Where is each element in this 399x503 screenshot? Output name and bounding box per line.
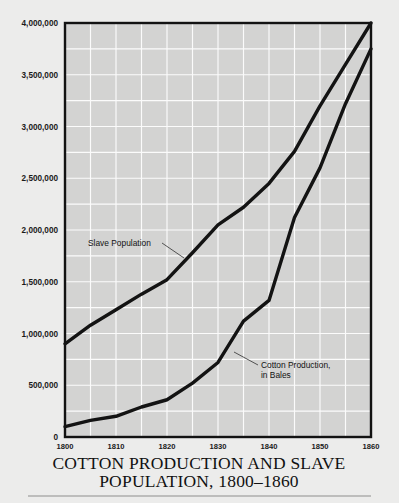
y-axis-tick-label: 4,000,000 <box>22 19 59 28</box>
cotton-slave-line-chart: 0500,0001,000,0001,500,0002,000,0002,500… <box>0 0 399 503</box>
x-axis-tick-label: 1800 <box>57 442 74 451</box>
x-axis-tick-label: 1820 <box>159 442 176 451</box>
x-axis-tick-label: 1840 <box>261 442 278 451</box>
y-axis-tick-label: 2,500,000 <box>22 174 59 183</box>
y-axis-tick-label: 1,500,000 <box>22 278 59 287</box>
chart-title-line-1: COTTON PRODUCTION AND SLAVE <box>52 453 345 473</box>
x-axis-tick-label: 1860 <box>363 442 380 451</box>
chart-title-line-2: POPULATION, 1800–1860 <box>99 471 299 491</box>
x-axis-tick-label: 1810 <box>108 442 125 451</box>
slave-population-annotation-label: Slave Population <box>88 238 151 248</box>
y-axis-tick-label: 3,500,000 <box>22 71 59 80</box>
cotton-production-annotation-label-line1: Cotton Production, <box>261 360 330 370</box>
y-axis-tick-label: 0 <box>53 433 58 442</box>
y-axis-tick-label: 500,000 <box>28 381 58 390</box>
cotton-production-annotation-label-line2: in Bales <box>261 370 291 380</box>
y-axis-tick-label: 3,000,000 <box>22 123 59 132</box>
chart-figure: 0500,0001,000,0001,500,0002,000,0002,500… <box>0 0 399 503</box>
y-axis-tick-label: 2,000,000 <box>22 226 59 235</box>
y-axis-tick-label: 1,000,000 <box>22 330 59 339</box>
x-axis-tick-label: 1850 <box>312 442 329 451</box>
x-axis-tick-label: 1830 <box>210 442 227 451</box>
